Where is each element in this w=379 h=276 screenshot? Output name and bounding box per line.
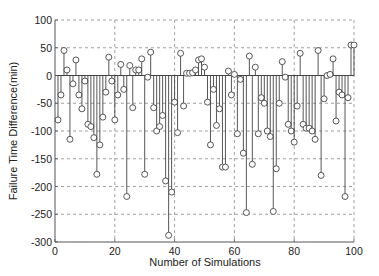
data-point xyxy=(115,92,121,98)
data-point xyxy=(178,50,184,56)
data-point xyxy=(243,210,249,216)
data-point xyxy=(285,121,291,127)
data-point xyxy=(246,53,252,59)
data-point xyxy=(339,92,345,98)
data-point xyxy=(270,208,276,214)
data-point xyxy=(240,150,246,156)
x-tick-label: 80 xyxy=(288,245,300,257)
data-point xyxy=(136,67,142,73)
data-point xyxy=(291,139,297,145)
data-point xyxy=(97,142,103,148)
data-point xyxy=(73,57,79,63)
data-point xyxy=(351,42,357,48)
data-point xyxy=(148,49,154,55)
data-point xyxy=(282,74,288,80)
data-point xyxy=(327,71,333,77)
data-point xyxy=(312,136,318,142)
data-point xyxy=(79,106,85,112)
x-tick-label: 100 xyxy=(345,245,363,257)
data-point xyxy=(199,56,205,62)
data-point xyxy=(228,92,234,98)
data-point xyxy=(70,81,76,87)
data-point xyxy=(279,59,285,65)
data-point xyxy=(276,100,282,106)
data-point xyxy=(249,161,255,167)
data-point xyxy=(207,142,213,148)
data-point xyxy=(216,106,222,112)
x-tick-label: 0 xyxy=(52,245,58,257)
data-point xyxy=(145,74,151,80)
data-point xyxy=(252,64,258,70)
data-point xyxy=(94,171,100,177)
data-point xyxy=(318,172,324,178)
data-point xyxy=(121,86,127,92)
data-point xyxy=(76,92,82,98)
data-point xyxy=(237,76,243,82)
data-point xyxy=(139,56,145,62)
y-tick-label: 0 xyxy=(46,70,52,82)
data-point xyxy=(100,114,106,120)
data-point xyxy=(91,135,97,141)
data-point xyxy=(172,99,178,105)
data-point xyxy=(169,189,175,195)
data-point xyxy=(127,63,133,69)
data-point xyxy=(267,134,273,140)
y-tick-label: -100 xyxy=(31,125,52,137)
data-point xyxy=(67,136,73,142)
data-point xyxy=(157,124,163,130)
y-tick-label: -200 xyxy=(31,181,52,193)
data-point xyxy=(288,128,294,134)
y-tick-label: -150 xyxy=(31,153,52,165)
data-point xyxy=(210,86,216,92)
data-point xyxy=(58,92,64,98)
data-point xyxy=(345,95,351,101)
y-tick-label: -300 xyxy=(31,236,52,248)
data-point xyxy=(193,67,199,73)
y-tick-label: 100 xyxy=(34,14,52,26)
data-point xyxy=(175,130,181,136)
data-point xyxy=(166,232,172,238)
y-tick-label: -250 xyxy=(31,208,52,220)
data-point xyxy=(130,105,136,111)
data-point xyxy=(112,117,118,123)
stem-chart: 100500-50-100-150-200-250-300 0204060801… xyxy=(0,0,379,276)
data-point xyxy=(64,67,70,73)
data-point xyxy=(181,103,187,109)
data-point xyxy=(106,54,112,60)
data-point xyxy=(103,89,109,95)
y-tick-label: -50 xyxy=(37,97,52,109)
data-point xyxy=(151,105,157,111)
data-point xyxy=(309,128,315,134)
data-point xyxy=(258,95,264,101)
data-point xyxy=(333,118,339,124)
data-point xyxy=(264,128,270,134)
x-tick-label: 20 xyxy=(109,245,121,257)
data-point xyxy=(142,171,148,177)
data-point xyxy=(330,56,336,62)
data-point xyxy=(118,61,124,67)
data-point xyxy=(273,166,279,172)
data-point xyxy=(61,48,67,54)
data-point xyxy=(225,68,231,74)
data-point xyxy=(88,124,94,130)
data-point xyxy=(204,99,210,105)
data-point xyxy=(297,50,303,56)
data-point xyxy=(294,103,300,109)
data-point xyxy=(109,78,115,84)
y-axis-label: Failure Time Difference(min) xyxy=(7,62,19,201)
data-point xyxy=(321,96,327,102)
data-point xyxy=(82,78,88,84)
data-point xyxy=(231,71,237,77)
data-point xyxy=(55,117,61,123)
data-point xyxy=(342,193,348,199)
data-point xyxy=(261,100,267,106)
x-axis-label: Number of Simulations xyxy=(149,256,261,268)
data-stems xyxy=(55,42,357,238)
data-point xyxy=(255,131,261,137)
data-point xyxy=(202,64,208,70)
data-point xyxy=(234,131,240,137)
data-point xyxy=(163,178,169,184)
data-point xyxy=(222,164,228,170)
y-tick-label: 50 xyxy=(40,42,52,54)
data-point xyxy=(315,48,321,54)
